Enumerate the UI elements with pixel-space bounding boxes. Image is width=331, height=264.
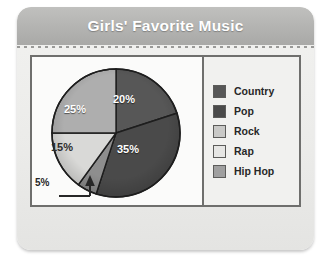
- legend-label-hiphop: Hip Hop: [234, 165, 274, 177]
- legend-label-rock: Rock: [234, 125, 260, 137]
- legend-swatch-pop: [213, 105, 226, 118]
- pie-chart-area: 20% 35% 25% 15% 5%: [32, 57, 202, 205]
- legend-label-country: Country: [234, 85, 274, 97]
- chart-legend: Country Pop Rock Rap Hip Hop: [204, 57, 299, 205]
- page-title: Girls' Favorite Music: [87, 17, 243, 35]
- legend-swatch-hiphop: [213, 165, 226, 178]
- dotted-divider: [17, 45, 314, 49]
- legend-item-hiphop[interactable]: Hip Hop: [213, 165, 299, 178]
- chart-card: Girls' Favorite Music: [17, 7, 314, 250]
- chart-frame: 20% 35% 25% 15% 5% Country Pop: [30, 55, 301, 207]
- pie-chart: [46, 67, 186, 199]
- legend-item-rock[interactable]: Rock: [213, 125, 299, 138]
- callout-label-5-percent: 5%: [35, 177, 49, 188]
- legend-item-pop[interactable]: Pop: [213, 105, 299, 118]
- pie-outline: [52, 69, 180, 197]
- legend-label-pop: Pop: [234, 105, 254, 117]
- legend-swatch-rap: [213, 145, 226, 158]
- legend-item-country[interactable]: Country: [213, 85, 299, 98]
- card-title-bar: Girls' Favorite Music: [17, 7, 314, 45]
- legend-swatch-country: [213, 85, 226, 98]
- legend-swatch-rock: [213, 125, 226, 138]
- legend-item-rap[interactable]: Rap: [213, 145, 299, 158]
- legend-label-rap: Rap: [234, 145, 254, 157]
